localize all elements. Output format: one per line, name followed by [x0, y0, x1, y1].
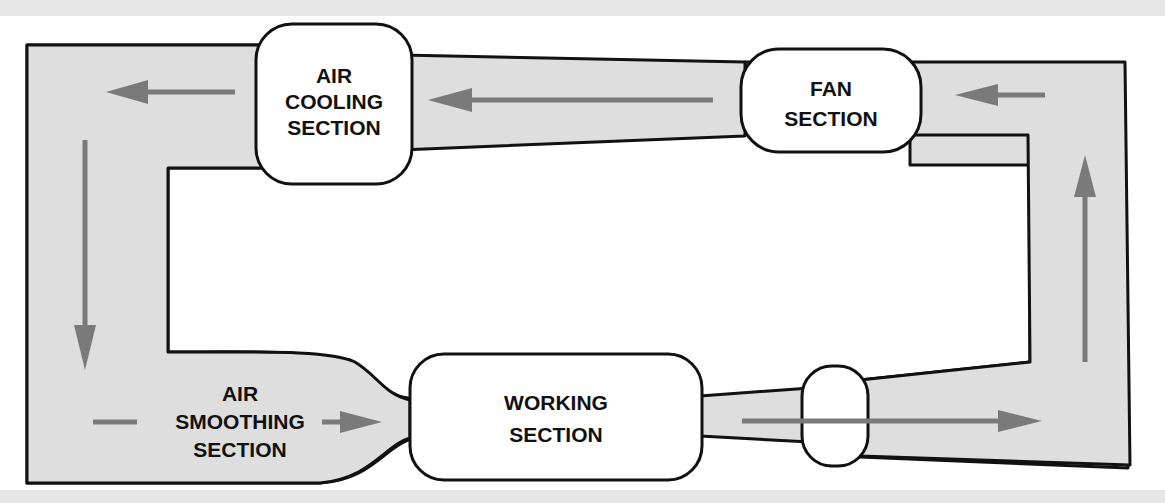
label-line: AIR [256, 63, 412, 89]
label-line: FAN [741, 74, 921, 104]
air-smoothing-section-label: AIR SMOOTHING SECTION [150, 380, 330, 464]
label-line: SECTION [410, 419, 702, 451]
label-line: SECTION [256, 115, 412, 141]
fan-section-label: FAN SECTION [741, 74, 921, 134]
air-cooling-section-label: AIR COOLING SECTION [256, 63, 412, 141]
label-line: SECTION [741, 104, 921, 134]
diffuser-duct [700, 388, 810, 442]
label-line: SECTION [150, 436, 330, 464]
label-line: COOLING [256, 89, 412, 115]
label-line: WORKING [410, 387, 702, 419]
label-line: AIR [150, 380, 330, 408]
model-support-oval[interactable] [802, 366, 868, 466]
working-section-label: WORKING SECTION [410, 387, 702, 451]
label-line: SMOOTHING [150, 408, 330, 436]
